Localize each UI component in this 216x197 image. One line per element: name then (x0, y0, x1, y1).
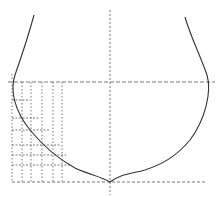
hull-outline-right (110, 17, 209, 182)
hull-section-diagram (0, 0, 216, 197)
construction-guides (8, 10, 215, 195)
hull-outline-left (13, 15, 110, 182)
